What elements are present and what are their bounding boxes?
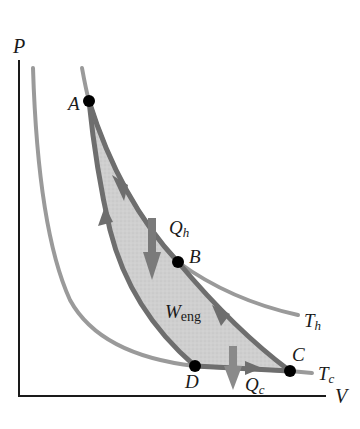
isotherm-tc-label-main: T — [318, 363, 329, 384]
point-c — [284, 365, 296, 377]
pv-diagram-canvas — [0, 0, 360, 429]
isotherm-th-label: Th — [304, 311, 321, 332]
isotherm-th-label-main: T — [304, 310, 315, 331]
point-a — [83, 95, 95, 107]
heat-in-label-main: Q — [169, 217, 183, 238]
heat-in-label: Qh — [169, 218, 189, 239]
isotherm-th-label-sub: h — [315, 318, 322, 333]
isotherm-tc-label: Tc — [318, 364, 334, 385]
heat-out-label-sub: c — [259, 382, 265, 397]
work-label: Weng — [165, 302, 201, 324]
point-d-label: D — [185, 372, 199, 391]
point-b — [172, 256, 184, 268]
y-axis-label: P — [13, 36, 25, 56]
pv-diagram: P V A B C D Th Tc Qh Qc Weng — [0, 0, 360, 429]
work-area — [89, 101, 290, 371]
heat-out-label: Qc — [245, 375, 265, 396]
heat-out-label-main: Q — [245, 374, 259, 395]
x-axis-label: V — [335, 386, 347, 406]
point-b-label: B — [189, 247, 201, 266]
work-label-main: W — [165, 301, 181, 322]
isotherm-tc-label-sub: c — [329, 371, 335, 386]
heat-in-label-sub: h — [183, 225, 190, 240]
work-label-sub: eng — [181, 309, 201, 324]
point-a-label: A — [68, 94, 80, 113]
point-c-label: C — [292, 345, 305, 364]
